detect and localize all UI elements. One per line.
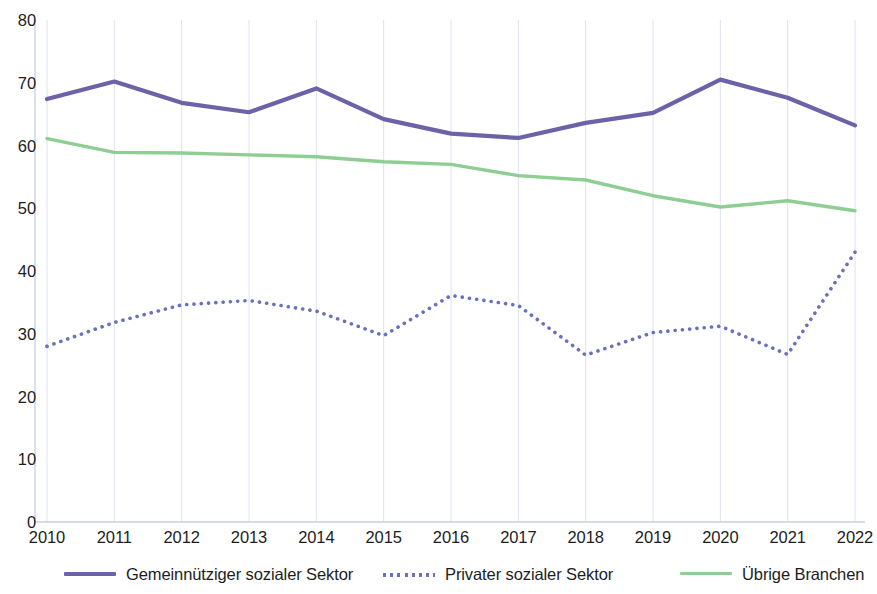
chart-canvas xyxy=(0,0,870,545)
line-swatch-icon xyxy=(680,567,732,581)
chart-legend: Gemeinnütziger sozialer SektorPrivater s… xyxy=(0,562,870,588)
y-tick-label: 50 xyxy=(6,200,36,217)
y-tick-label: 10 xyxy=(6,451,36,468)
x-axis-tick-labels: 2010201120122013201420152016201720182019… xyxy=(0,528,870,556)
y-tick-label: 70 xyxy=(6,75,36,92)
y-tick-label: 20 xyxy=(6,389,36,406)
x-tick-label: 2015 xyxy=(349,528,419,546)
y-axis-tick-labels: 01020304050607080 xyxy=(0,0,36,545)
x-tick-label: 2022 xyxy=(820,528,877,546)
y-tick-label: 60 xyxy=(6,138,36,155)
y-tick-label: 40 xyxy=(6,263,36,280)
x-tick-label: 2020 xyxy=(685,528,755,546)
x-tick-label: 2021 xyxy=(753,528,823,546)
y-tick-label: 30 xyxy=(6,326,36,343)
line-swatch-icon xyxy=(64,567,116,581)
plot-area: 01020304050607080 xyxy=(0,0,870,545)
x-tick-label: 2011 xyxy=(79,528,149,546)
x-tick-label: 2017 xyxy=(483,528,553,546)
legend-item-label: Privater sozialer Sektor xyxy=(445,564,613,584)
x-tick-label: 2012 xyxy=(147,528,217,546)
legend-item-label: Gemeinnütziger sozialer Sektor xyxy=(126,564,353,584)
dotted-line-swatch-icon xyxy=(383,567,435,581)
y-tick-label: 80 xyxy=(6,12,36,29)
legend-item[interactable]: Gemeinnütziger sozialer Sektor xyxy=(64,562,353,586)
legend-item[interactable]: Übrige Branchen xyxy=(680,562,864,586)
legend-item-label: Übrige Branchen xyxy=(742,564,864,584)
x-tick-label: 2013 xyxy=(214,528,284,546)
x-tick-label: 2010 xyxy=(12,528,82,546)
x-tick-label: 2014 xyxy=(281,528,351,546)
x-tick-label: 2016 xyxy=(416,528,486,546)
legend-item[interactable]: Privater sozialer Sektor xyxy=(383,562,613,586)
x-tick-label: 2018 xyxy=(551,528,621,546)
x-tick-label: 2019 xyxy=(618,528,688,546)
